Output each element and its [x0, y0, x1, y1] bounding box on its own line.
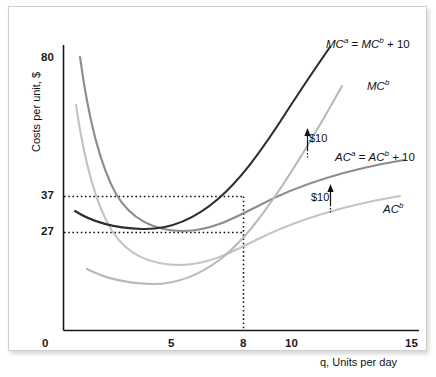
mc-b-base: MC [367, 80, 385, 92]
mc-a-base: MC [326, 38, 344, 50]
ac-a-base: AC [335, 151, 351, 163]
x-axis-title: q, Units per day [320, 357, 397, 368]
x-tick-8: 8 [240, 338, 246, 350]
annotation-mc-gap: $10 [309, 133, 327, 144]
y-axis-title: Costs per unit, $ [30, 72, 42, 152]
x-tick-0: 0 [42, 338, 48, 350]
mc-a-plus: + 10 [384, 38, 410, 50]
mc-b-sup: b [385, 78, 389, 87]
curve-label-ac-a: ACa = ACb + 10 [335, 150, 415, 163]
ac-a-base2: AC [369, 151, 385, 163]
curve-label-mc-b: MCb [367, 79, 389, 92]
ac-a-plus: + 10 [389, 151, 415, 163]
x-tick-15: 15 [405, 338, 418, 350]
x-tick-10: 10 [285, 338, 298, 350]
y-tick-80: 80 [41, 52, 54, 64]
mc-a-eq: = [348, 38, 361, 50]
curve-label-mc-a: MCa = MCb + 10 [326, 37, 410, 50]
ac-a-eq: = [355, 151, 368, 163]
chart-canvas [0, 0, 436, 377]
y-tick-27: 27 [41, 226, 54, 238]
curve-label-ac-b: ACb [383, 202, 403, 215]
figure-container: Costs per unit, $ 80 37 27 0 5 8 10 15 q… [0, 0, 436, 377]
y-tick-37: 37 [41, 190, 54, 202]
x-tick-5: 5 [168, 338, 174, 350]
ac-b-base: AC [383, 203, 399, 215]
ac-b-sup: b [399, 201, 403, 210]
mc-a-base2: MC [361, 38, 379, 50]
curve-mc-a [75, 47, 330, 229]
curve-ac-b [76, 105, 400, 265]
annotation-ac-gap: $10 [311, 192, 329, 203]
